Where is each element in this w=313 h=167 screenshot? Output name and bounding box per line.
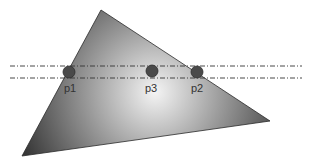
triangle-scanline-diagram: p1p3p2 bbox=[0, 0, 313, 167]
point-p2-label: p2 bbox=[191, 82, 203, 94]
point-p1-marker bbox=[63, 66, 75, 78]
point-p2-marker bbox=[191, 66, 203, 78]
point-p3-marker bbox=[146, 65, 158, 77]
point-p1-label: p1 bbox=[64, 82, 76, 94]
point-p3-label: p3 bbox=[145, 82, 157, 94]
